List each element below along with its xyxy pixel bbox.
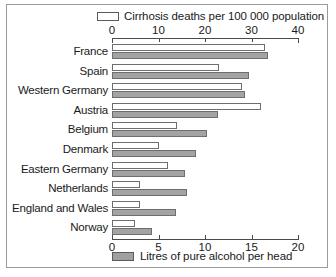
axis-tick <box>252 38 253 42</box>
bar-row: Belgium <box>7 121 329 141</box>
country-label: Western Germany <box>0 84 108 96</box>
bar-row: England and Wales <box>7 200 329 220</box>
bar-alcohol <box>112 52 268 59</box>
bar-pair <box>112 142 298 157</box>
bar-row: Eastern Germany <box>7 161 329 181</box>
bar-pair <box>112 162 298 177</box>
bar-alcohol <box>112 209 176 216</box>
legend-bottom-label: Litres of pure alcohol per head <box>140 250 292 262</box>
country-label: England and Wales <box>0 202 108 214</box>
bar-pair <box>112 122 298 137</box>
country-label: Belgium <box>0 123 108 135</box>
chart-figure: Cirrhosis deaths per 100 000 population … <box>6 4 328 268</box>
bar-cirrhosis <box>112 64 219 71</box>
country-label: Eastern Germany <box>0 163 108 175</box>
bar-cirrhosis <box>112 44 265 51</box>
bar-cirrhosis <box>112 181 140 188</box>
axis-tick <box>205 38 206 42</box>
bar-row: France <box>7 43 329 63</box>
legend-bottom: Litres of pure alcohol per head <box>112 250 292 262</box>
country-label: Austria <box>0 104 108 116</box>
bar-pair <box>112 64 298 79</box>
axis-tick-label: 0 <box>109 24 115 36</box>
bar-row: Spain <box>7 63 329 83</box>
bar-cirrhosis <box>112 162 168 169</box>
bar-row: Austria <box>7 102 329 122</box>
bar-cirrhosis <box>112 220 135 227</box>
bar-cirrhosis <box>112 201 140 208</box>
legend-top: Cirrhosis deaths per 100 000 population <box>97 10 324 22</box>
bar-alcohol <box>112 111 218 118</box>
bar-row: Netherlands <box>7 180 329 200</box>
country-label: Denmark <box>0 143 108 155</box>
bar-alcohol <box>112 72 249 79</box>
bar-row: Norway <box>7 219 329 239</box>
axis-tick-label: 40 <box>292 24 305 36</box>
bar-pair <box>112 181 298 196</box>
bar-alcohol <box>112 228 152 235</box>
bar-alcohol <box>112 150 196 157</box>
bar-alcohol <box>112 91 245 98</box>
bar-cirrhosis <box>112 103 261 110</box>
bar-pair <box>112 83 298 98</box>
axis-tick-label: 30 <box>245 24 258 36</box>
bar-alcohol <box>112 189 187 196</box>
axis-tick-label: 20 <box>292 241 305 253</box>
axis-tick-label: 10 <box>152 24 165 36</box>
axis-tick <box>298 235 299 240</box>
bar-pair <box>112 220 298 235</box>
grey-swatch-icon <box>112 252 134 261</box>
bottom-axis-line <box>112 239 298 240</box>
legend-top-label: Cirrhosis deaths per 100 000 population <box>124 10 324 22</box>
country-label: Spain <box>0 65 108 77</box>
bar-cirrhosis <box>112 122 177 129</box>
bar-row: Denmark <box>7 141 329 161</box>
bar-row: Western Germany <box>7 82 329 102</box>
bar-alcohol <box>112 130 207 137</box>
bar-pair <box>112 103 298 118</box>
bar-pair <box>112 44 298 59</box>
white-swatch-icon <box>97 12 119 21</box>
country-label: France <box>0 45 108 57</box>
bar-alcohol <box>112 170 185 177</box>
top-axis-tick-labels: 010203040 <box>112 24 298 37</box>
country-label: Netherlands <box>0 182 108 194</box>
axis-tick-label: 20 <box>199 24 212 36</box>
bar-rows: FranceSpainWestern GermanyAustriaBelgium… <box>7 43 329 239</box>
bar-cirrhosis <box>112 83 242 90</box>
bar-cirrhosis <box>112 142 159 149</box>
country-label: Norway <box>0 221 108 233</box>
bar-pair <box>112 201 298 216</box>
axis-tick <box>159 38 160 42</box>
